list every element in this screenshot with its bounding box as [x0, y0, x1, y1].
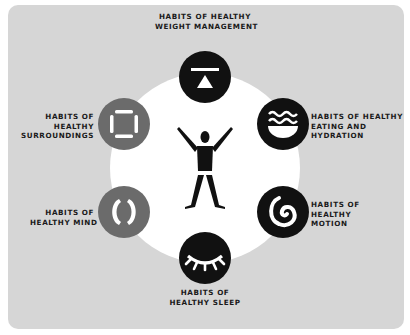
square-frame-icon: [98, 98, 150, 150]
habit-sleep-label: HABITS OF HEALTHY SLEEP: [155, 288, 255, 307]
habit-sleep-node: [179, 232, 231, 284]
habit-eating-label: HABITS OF HEALTHY EATING AND HYDRATION: [311, 112, 403, 141]
habit-mind-label: HABITS OF HEALTHY MIND: [30, 208, 94, 227]
bowl-water-waves-icon: [257, 98, 309, 150]
habit-weight-node: [179, 51, 231, 103]
weight-scale-icon: [179, 51, 231, 103]
person-arms-raised-icon: [175, 123, 235, 213]
closed-eye-lashes-icon: [179, 232, 231, 284]
habit-motion-label: HABITS OF HEALTHY MOTION: [311, 200, 360, 229]
habit-motion-node: [257, 186, 309, 238]
brackets-circle-icon: [98, 186, 150, 238]
habit-mind-node: [98, 186, 150, 238]
habit-surroundings-node: [98, 98, 150, 150]
habit-weight-label: HABITS OF HEALTHY WEIGHT MANAGEMENT: [155, 12, 255, 31]
habit-surroundings-label: HABITS OF HEALTHY SURROUNDINGS: [20, 112, 94, 141]
habit-eating-node: [257, 98, 309, 150]
spiral-icon: [257, 186, 309, 238]
